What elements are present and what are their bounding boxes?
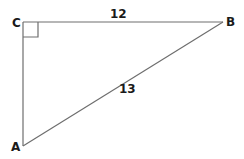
right-angle-marker-icon: [23, 22, 38, 37]
vertex-label-a: A: [11, 140, 21, 154]
side-length-cb: 12: [110, 7, 127, 21]
side-length-ba: 13: [119, 82, 136, 96]
vertex-label-c: C: [12, 16, 21, 30]
triangle-diagram: C B A 12 13: [0, 0, 244, 159]
vertex-label-b: B: [226, 15, 235, 29]
